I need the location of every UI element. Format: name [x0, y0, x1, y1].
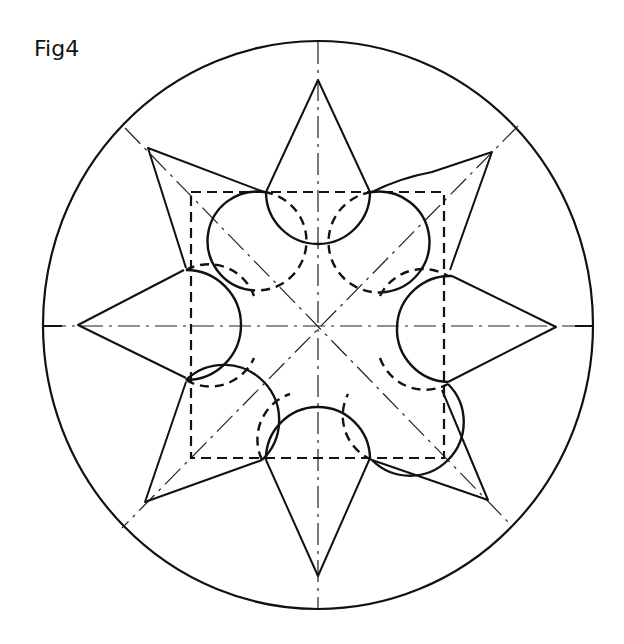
star-construction-diagram [0, 0, 624, 644]
center-lines [44, 42, 592, 608]
star-outline [78, 80, 556, 576]
lobe-circle-top-right [329, 192, 430, 293]
lobe-circle-right [380, 269, 452, 390]
lobe-circle-top-left [208, 192, 307, 291]
